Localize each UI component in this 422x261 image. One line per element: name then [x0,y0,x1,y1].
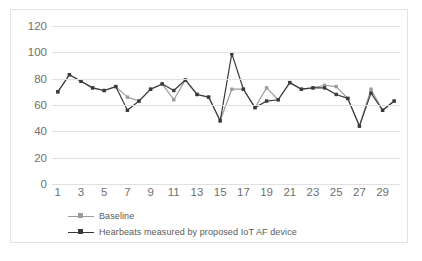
legend-marker [78,229,83,234]
y-axis-tick-label: 40 [19,125,47,137]
y-axis-tick-label: 20 [19,152,47,164]
series-iot-device [56,52,396,128]
x-axis-tick-label: 27 [353,186,366,198]
data-point-marker [207,95,210,98]
x-axis-tick-label: 15 [214,186,227,198]
data-point-marker [68,73,71,76]
y-axis-tick-label: 100 [19,46,47,58]
legend-label: Baseline [99,211,134,221]
x-axis-tick-label: 11 [168,186,180,198]
y-axis-tick-label: 80 [19,73,47,85]
data-point-marker [114,85,117,88]
legend-swatch-icon [68,227,94,237]
y-axis: 020406080100120 [17,10,47,244]
data-point-marker [369,88,372,91]
x-axis-tick-label: 13 [191,186,204,198]
gridline [52,105,400,106]
x-axis-tick-label: 1 [55,186,61,198]
gridline [52,131,400,132]
data-point-marker [91,86,94,89]
gridline [52,26,400,27]
data-point-marker [219,119,222,122]
x-axis-tick-label: 7 [124,186,130,198]
legend-swatch-icon [68,211,94,221]
chart-container: 020406080100120 135791113151719212325272… [10,9,408,243]
legend-item[interactable]: Hearbeats measured by proposed IoT AF de… [68,225,297,239]
y-axis-tick-label: 0 [19,178,47,190]
legend-marker [78,213,83,218]
data-point-marker [149,88,152,91]
x-axis-tick-label: 23 [307,186,320,198]
data-point-marker [79,80,82,83]
series-baseline [56,73,396,128]
data-point-marker [172,98,175,101]
data-point-marker [242,88,245,91]
chart-plot-wrapper: 020406080100120 135791113151719212325272… [11,10,409,244]
y-axis-tick-label: 120 [19,20,47,32]
x-axis-tick-label: 19 [260,186,273,198]
plot-area [52,26,400,184]
data-point-marker [126,95,129,98]
gridline [52,52,400,53]
data-point-marker [358,124,361,127]
y-axis-tick-label: 60 [19,99,47,111]
x-axis-tick-label: 25 [330,186,343,198]
x-axis-tick-label: 9 [147,186,153,198]
x-axis-tick-label: 5 [101,186,107,198]
series-line [58,54,394,126]
data-point-marker [277,98,280,101]
data-point-marker [230,88,233,91]
data-point-marker [335,85,338,88]
gridline [52,158,400,159]
legend-label: Hearbeats measured by proposed IoT AF de… [99,227,297,237]
data-point-marker [172,89,175,92]
series-line [58,75,394,126]
data-point-marker [253,106,256,109]
gridline [52,79,400,80]
chart-legend: BaselineHearbeats measured by proposed I… [52,209,402,243]
data-point-marker [161,82,164,85]
data-point-marker [381,109,384,112]
x-axis-tick-label: 17 [237,186,250,198]
data-point-marker [103,89,106,92]
data-point-marker [288,81,291,84]
data-point-marker [265,99,268,102]
data-point-marker [137,99,140,102]
gridline [52,184,400,185]
data-point-marker [323,86,326,89]
data-point-marker [126,109,129,112]
data-point-marker [335,93,338,96]
x-axis-tick-label: 21 [283,186,296,198]
x-axis-tick-label: 29 [376,186,389,198]
data-point-marker [56,90,59,93]
data-point-marker [369,91,372,94]
x-axis-tick-label: 3 [78,186,84,198]
data-point-marker [265,86,268,89]
data-point-marker [311,86,314,89]
data-point-marker [346,97,349,100]
data-point-marker [300,88,303,91]
data-point-marker [393,99,396,102]
x-axis: 1357911131517192123252729 [52,186,400,208]
data-point-marker [195,93,198,96]
legend-item[interactable]: Baseline [68,209,134,223]
